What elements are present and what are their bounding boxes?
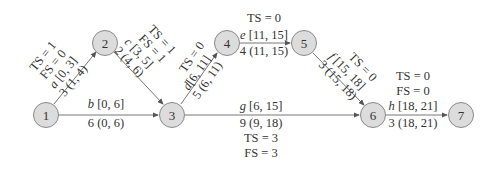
edge-h-duration: 3 (18, 21) [389, 116, 438, 130]
network-diagram: TS = 1 FS = 0 a [0, 3] 3 (1, 4) b [0, 6]… [0, 0, 498, 171]
node-6: 6 [361, 103, 386, 128]
node-1: 1 [34, 103, 59, 128]
edge-a-labels: TS = 1 FS = 0 a [0, 3] 3 (1, 4) [26, 38, 90, 100]
edge-g-ts: TS = 3 [244, 131, 278, 145]
svg-text:7: 7 [458, 108, 465, 123]
svg-text:5: 5 [301, 36, 308, 51]
svg-text:e [11, 15]: e [11, 15] [240, 28, 288, 42]
edge-g-fs: FS = 3 [244, 146, 277, 160]
svg-text:2: 2 [102, 36, 109, 51]
node-3: 3 [160, 103, 185, 128]
node-4: 4 [215, 31, 240, 56]
svg-text:3: 3 [169, 108, 176, 123]
svg-text:1: 1 [43, 108, 50, 123]
node-7: 7 [449, 103, 474, 128]
edge-f-labels: TS = 0 f [15, 18] 3 (15, 18) [316, 39, 380, 103]
edge-b-duration: 6 (0, 6) [88, 116, 124, 130]
edge-c-labels: TS = 1 FS = 1 c [3, 5] 2 (4, 6) [112, 17, 179, 83]
edge-b-name: b [88, 97, 94, 111]
edge-h-es-ef: [18, 21] [398, 99, 438, 113]
svg-text:h [18, 21]: h [18, 21] [389, 99, 438, 113]
svg-text:6: 6 [370, 108, 377, 123]
edge-h-ts: TS = 0 [396, 69, 430, 83]
edge-h-name: h [389, 99, 395, 113]
svg-text:b [0, 6]: b [0, 6] [88, 97, 124, 111]
edge-h-fs: FS = 0 [396, 84, 429, 98]
edge-g-es-ef: [6, 15] [249, 99, 282, 113]
edge-e-es-ef: [11, 15] [249, 28, 288, 42]
edge-e-duration: 4 (11, 15) [240, 44, 289, 58]
edge-e-ts: TS = 0 [247, 11, 281, 25]
edge-b-es-ef: [0, 6] [97, 97, 124, 111]
node-2: 2 [93, 31, 118, 56]
svg-text:4: 4 [224, 36, 231, 51]
svg-text:g [6, 15]: g [6, 15] [240, 99, 283, 113]
edge-g-name: g [240, 99, 246, 113]
edge-g-duration: 9 (9, 18) [240, 116, 283, 130]
node-5: 5 [292, 31, 317, 56]
edge-e-name: e [240, 28, 246, 42]
